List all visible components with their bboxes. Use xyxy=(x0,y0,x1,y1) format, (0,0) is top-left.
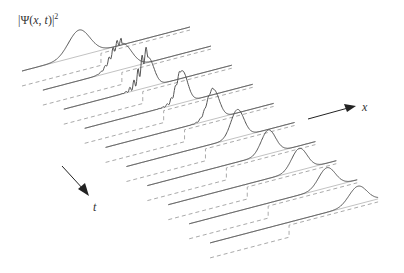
potential-step-line xyxy=(210,202,378,258)
trace-baseline xyxy=(106,103,274,147)
x-arrow-head-icon xyxy=(344,104,356,112)
t-arrow-line xyxy=(62,166,84,190)
wavefunction-trace xyxy=(106,88,274,147)
trace-baseline xyxy=(127,123,295,167)
wavefunction-trace xyxy=(189,168,357,224)
trace-baseline xyxy=(168,161,336,205)
trace-baseline xyxy=(147,142,315,186)
wavefunction-trace xyxy=(210,186,378,243)
wavefunction-trace xyxy=(127,109,295,166)
wavefunction-trace xyxy=(147,130,315,186)
waterfall-plot xyxy=(0,0,404,273)
wavefunction-trace xyxy=(85,71,253,129)
trace-baseline xyxy=(22,27,190,71)
x-arrow-line xyxy=(308,108,348,119)
x-axis-label: x xyxy=(362,100,367,115)
trace-baseline xyxy=(43,46,211,90)
trace-baseline xyxy=(189,180,357,224)
wavefunction-trace xyxy=(43,38,211,90)
t-axis-label: t xyxy=(93,200,96,215)
trace-baseline xyxy=(210,199,378,243)
trace-baseline xyxy=(85,84,253,128)
